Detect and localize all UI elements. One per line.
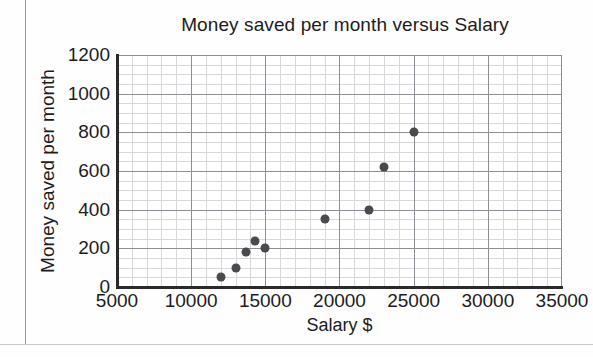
y-tick-label: 600 bbox=[48, 160, 110, 182]
data-point bbox=[242, 248, 251, 257]
data-point bbox=[320, 215, 329, 224]
x-axis-tick-labels: 5000100001500020000250003000035000 bbox=[117, 290, 562, 316]
major-gridlines bbox=[117, 55, 562, 287]
data-point bbox=[380, 163, 389, 172]
data-point bbox=[216, 273, 225, 282]
x-tick-label: 35000 bbox=[536, 290, 589, 312]
page-bottom-rule bbox=[0, 344, 593, 345]
y-tick-label: 200 bbox=[48, 237, 110, 259]
x-tick-label: 30000 bbox=[461, 290, 514, 312]
data-point bbox=[231, 263, 240, 272]
x-tick-label: 5000 bbox=[96, 290, 138, 312]
y-axis-line bbox=[116, 54, 119, 288]
data-point bbox=[250, 236, 259, 245]
data-point bbox=[365, 205, 374, 214]
figure-container: Money saved per month versus Salary Mone… bbox=[0, 0, 593, 357]
x-tick-label: 10000 bbox=[165, 290, 218, 312]
plot-area bbox=[117, 55, 562, 287]
x-axis-title: Salary $ bbox=[117, 315, 562, 336]
x-tick-label: 25000 bbox=[387, 290, 440, 312]
y-tick-label: 400 bbox=[48, 199, 110, 221]
x-axis-line bbox=[116, 286, 563, 289]
y-tick-label: 1000 bbox=[48, 83, 110, 105]
data-point bbox=[261, 244, 270, 253]
y-tick-label: 800 bbox=[48, 121, 110, 143]
y-axis-tick-labels: 020040060080010001200 bbox=[48, 55, 110, 287]
x-tick-label: 15000 bbox=[239, 290, 292, 312]
y-tick-label: 1200 bbox=[48, 44, 110, 66]
x-tick-label: 20000 bbox=[313, 290, 366, 312]
data-point bbox=[409, 128, 418, 137]
chart-title: Money saved per month versus Salary bbox=[110, 14, 580, 36]
scatter-chart: Money saved per month versus Salary Mone… bbox=[0, 0, 593, 344]
